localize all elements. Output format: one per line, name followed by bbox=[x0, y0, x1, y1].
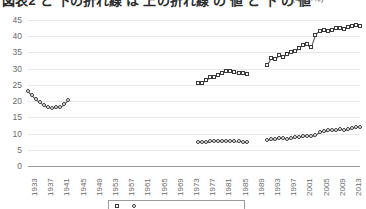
x-tick-label: 1969 bbox=[177, 178, 185, 196]
chart-legend bbox=[108, 200, 245, 209]
y-tick-label: 45 bbox=[2, 16, 22, 24]
x-tick-label: 1977 bbox=[209, 178, 217, 196]
data-point-marker bbox=[273, 57, 277, 61]
data-point-marker bbox=[326, 128, 330, 132]
x-tick-label: 1961 bbox=[144, 178, 152, 196]
legend-item[interactable] bbox=[132, 204, 139, 208]
y-tick-label: 35 bbox=[2, 48, 22, 56]
x-tick-label: 1981 bbox=[225, 178, 233, 196]
y-tick-label: 15 bbox=[2, 113, 22, 121]
chart-title-strip: 図表2 と 下の折れ線 は 上の折れ線 の 値 と 下 の 値 (単位:％) bbox=[0, 0, 366, 9]
y-tick-label: 0 bbox=[2, 162, 22, 170]
gridline bbox=[28, 20, 360, 21]
x-tick-label: 2013 bbox=[355, 178, 363, 196]
y-tick-label: 10 bbox=[2, 130, 22, 138]
y-tick-label: 30 bbox=[2, 65, 22, 73]
data-point-marker bbox=[358, 125, 362, 129]
gridline bbox=[28, 52, 360, 53]
x-tick-label: 1957 bbox=[128, 178, 136, 196]
x-tick-label: 1989 bbox=[258, 178, 266, 196]
plot-area bbox=[28, 20, 360, 166]
gridline bbox=[28, 101, 360, 102]
y-tick-label: 20 bbox=[2, 97, 22, 105]
x-tick-label: 1973 bbox=[193, 178, 201, 196]
legend-item[interactable] bbox=[115, 204, 122, 208]
data-point-marker bbox=[322, 129, 326, 133]
data-point-marker bbox=[297, 46, 301, 50]
x-tick-label: 1941 bbox=[63, 178, 71, 196]
data-point-marker bbox=[245, 140, 249, 144]
gridline bbox=[28, 117, 360, 118]
data-point-marker bbox=[309, 45, 313, 49]
x-tick-label: 1993 bbox=[274, 178, 282, 196]
x-tick-label: 2005 bbox=[323, 178, 331, 196]
x-tick-label: 1933 bbox=[31, 178, 39, 196]
gridline bbox=[28, 69, 360, 70]
data-point-marker bbox=[237, 139, 241, 143]
data-point-marker bbox=[358, 24, 362, 28]
data-point-marker bbox=[245, 72, 249, 76]
x-tick-label: 2001 bbox=[306, 178, 314, 196]
x-tick-label: 2009 bbox=[339, 178, 347, 196]
data-point-marker bbox=[200, 81, 204, 85]
circle-marker-icon bbox=[132, 204, 136, 208]
y-tick-label: 40 bbox=[2, 32, 22, 40]
square-marker-icon bbox=[115, 204, 119, 208]
gridline bbox=[28, 85, 360, 86]
y-tick-label: 5 bbox=[2, 146, 22, 154]
gridline bbox=[28, 150, 360, 151]
x-axis-line bbox=[28, 166, 360, 167]
x-tick-label: 1965 bbox=[161, 178, 169, 196]
x-tick-label: 1985 bbox=[242, 178, 250, 196]
legend-entries bbox=[115, 204, 139, 208]
data-point-marker bbox=[313, 133, 317, 137]
x-tick-label: 1945 bbox=[80, 178, 88, 196]
page-title: 図表2 と 下の折れ線 は 上の折れ線 の 値 と 下 の 値 bbox=[2, 0, 312, 9]
chart-container: 図表2 と 下の折れ線 は 上の折れ線 の 値 と 下 の 値 (単位:％) 0… bbox=[0, 0, 366, 209]
x-tick-label: 1937 bbox=[47, 178, 55, 196]
gridline bbox=[28, 36, 360, 37]
title-unit-label: (単位:％) bbox=[292, 0, 324, 3]
x-tick-label: 1953 bbox=[112, 178, 120, 196]
x-axis-ticks: 1933193719411945194919531957196119651969… bbox=[28, 168, 360, 198]
data-point-marker bbox=[318, 130, 322, 134]
data-point-marker bbox=[62, 102, 66, 106]
x-tick-label: 1997 bbox=[290, 178, 298, 196]
data-point-marker bbox=[265, 63, 269, 67]
x-tick-label: 1949 bbox=[96, 178, 104, 196]
data-point-marker bbox=[241, 140, 245, 144]
y-tick-label: 25 bbox=[2, 81, 22, 89]
data-point-marker bbox=[313, 33, 317, 37]
